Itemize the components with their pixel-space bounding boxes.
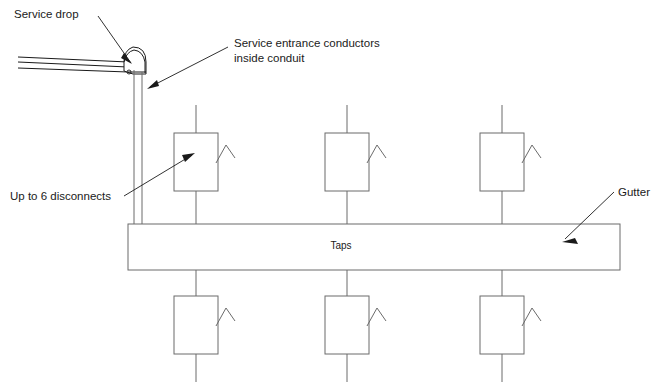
label-service-entrance-line1: Service entrance conductors bbox=[234, 37, 380, 49]
label-service-entrance-line2: inside conduit bbox=[234, 52, 305, 64]
disconnect-top-2[interactable] bbox=[325, 105, 386, 224]
gutter-wireway bbox=[128, 224, 620, 270]
disconnect-bottom-1[interactable] bbox=[174, 270, 235, 382]
diagram-canvas: Service drop Service entrance conductors… bbox=[0, 0, 663, 388]
leader-service-drop bbox=[98, 16, 132, 64]
disconnect-bottom-2[interactable] bbox=[325, 270, 386, 382]
label-up-to-6-disconnects: Up to 6 disconnects bbox=[10, 190, 111, 202]
disconnect-top-1[interactable] bbox=[174, 105, 235, 224]
disconnect-top-3[interactable] bbox=[480, 105, 541, 224]
label-service-drop: Service drop bbox=[14, 8, 79, 20]
disconnect-bottom-3[interactable] bbox=[480, 270, 541, 382]
label-taps: Taps bbox=[330, 240, 351, 251]
service-entrance-conduit bbox=[134, 70, 142, 226]
electrical-service-diagram: Service drop Service entrance conductors… bbox=[0, 0, 663, 388]
label-gutter: Gutter bbox=[618, 186, 650, 198]
leader-service-entrance-conductors bbox=[147, 47, 228, 89]
service-drop-conductors bbox=[18, 57, 128, 72]
